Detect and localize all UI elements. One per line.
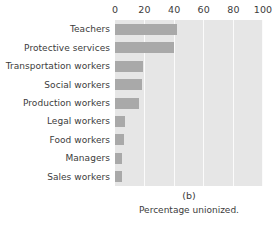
x-tick-label: 20 (138, 3, 151, 16)
x-tick-label: 0 (112, 3, 118, 16)
bar (115, 98, 139, 109)
x-tick-label: 60 (198, 3, 211, 16)
bar (115, 79, 142, 90)
gridline (233, 20, 234, 186)
gridline (262, 20, 263, 186)
gridline (203, 20, 204, 186)
bar (115, 116, 125, 127)
category-label: Legal workers (47, 116, 110, 126)
caption-text: Percentage unionized. (115, 203, 263, 217)
category-label: Transportation workers (6, 61, 110, 71)
category-label: Social workers (44, 80, 110, 90)
x-tick-label: 40 (168, 3, 181, 16)
bar (115, 24, 177, 35)
x-tick-label: 80 (227, 3, 240, 16)
category-label: Managers (65, 153, 110, 163)
bar (115, 42, 174, 53)
category-label: Teachers (70, 24, 110, 34)
x-axis-tick-labels: 020406080100 (0, 3, 277, 18)
category-label: Production workers (23, 98, 110, 108)
figure-caption: (b) Percentage unionized. (115, 189, 263, 217)
bar (115, 134, 124, 145)
category-label: Protective services (24, 43, 110, 53)
bar (115, 153, 122, 164)
bar (115, 171, 122, 182)
plot-area (115, 20, 263, 186)
bar (115, 61, 143, 72)
panel-letter: (b) (115, 189, 263, 203)
category-label: Sales workers (47, 172, 110, 182)
category-label: Food workers (50, 135, 110, 145)
x-tick-label: 100 (254, 3, 273, 16)
y-axis-category-labels: TeachersProtective servicesTransportatio… (0, 20, 113, 186)
bar-chart-figure: 020406080100 TeachersProtective services… (0, 0, 277, 225)
